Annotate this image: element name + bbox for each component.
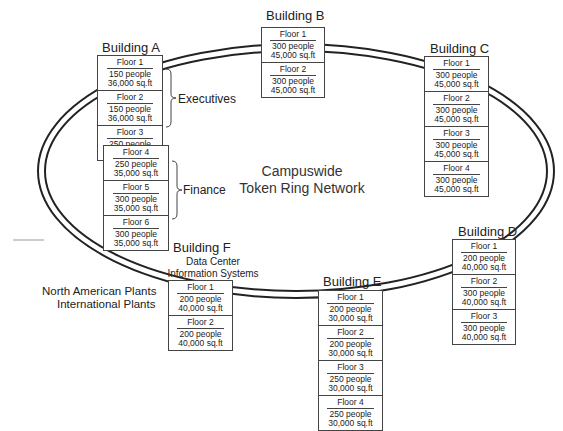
floor-area: 30,000 sq.ft — [319, 314, 382, 323]
finance-brace — [170, 160, 184, 220]
building-a-title: Building A — [102, 40, 160, 55]
building-d: Floor 1 200 people 40,000 sq.ft Floor 2 … — [452, 239, 516, 345]
floor-area: 36,000 sq.ft — [98, 79, 162, 88]
floor-area: 30,000 sq.ft — [319, 419, 382, 428]
floor-name: Floor 3 — [433, 129, 479, 140]
floor-area: 40,000 sq.ft — [453, 298, 515, 307]
floor-name: Floor 4 — [433, 164, 479, 175]
floor: Floor 6 300 people 35,000 sq.ft — [104, 215, 168, 250]
floor-area: 30,000 sq.ft — [319, 384, 382, 393]
floor: Floor 1 200 people 40,000 sq.ft — [169, 281, 232, 315]
building-c: Floor 1 300 people 45,000 sq.ft Floor 2 … — [424, 56, 489, 197]
floor-name: Floor 1 — [270, 30, 316, 41]
floor-name: Floor 1 — [327, 293, 373, 304]
floor-name: Floor 1 — [177, 283, 223, 294]
floor-area: 40,000 sq.ft — [453, 333, 515, 342]
floor-area: 45,000 sq.ft — [262, 51, 324, 60]
floor: Floor 4 300 people 45,000 sq.ft — [425, 161, 488, 196]
building-f-subtitle-1: Data Center — [158, 256, 268, 267]
floor-name: Floor 3 — [461, 312, 507, 323]
executives-brace — [164, 68, 178, 128]
floor-name: Floor 2 — [270, 65, 316, 76]
floor: Floor 1 150 people 36,000 sq.ft — [98, 56, 162, 90]
floor-area: 45,000 sq.ft — [262, 86, 324, 95]
floor-area: 40,000 sq.ft — [169, 304, 232, 313]
floor: Floor 4 250 people 35,000 sq.ft — [104, 146, 168, 180]
floor: Floor 1 300 people 45,000 sq.ft — [425, 57, 488, 91]
international-plants-label: International Plants — [57, 298, 155, 310]
floor-area: 45,000 sq.ft — [425, 150, 488, 159]
network-label: Campuswide Token Ring Network — [222, 163, 382, 197]
floor-name: Floor 4 — [113, 148, 159, 159]
floor-name: Floor 1 — [433, 59, 479, 70]
building-e-title: Building E — [323, 274, 382, 289]
building-d-title: Building D — [458, 224, 517, 239]
building-f-title: Building F — [173, 240, 231, 255]
floor: Floor 3 250 people 30,000 sq.ft — [319, 360, 382, 395]
floor-name: Floor 1 — [107, 58, 153, 69]
floor-area: 30,000 sq.ft — [319, 349, 382, 358]
floor: Floor 2 150 people 36,000 sq.ft — [98, 90, 162, 125]
floor-name: Floor 2 — [433, 94, 479, 105]
floor-area: 35,000 sq.ft — [104, 169, 168, 178]
floor: Floor 2 300 people 40,000 sq.ft — [453, 274, 515, 309]
finance-label: Finance — [183, 183, 226, 197]
floor: Floor 2 200 people 40,000 sq.ft — [169, 315, 232, 350]
building-f: Floor 1 200 people 40,000 sq.ft Floor 2 … — [168, 280, 233, 351]
floor-area: 45,000 sq.ft — [425, 185, 488, 194]
floor-name: Floor 2 — [461, 277, 507, 288]
floor-name: Floor 4 — [327, 398, 373, 409]
floor: Floor 1 200 people 30,000 sq.ft — [319, 291, 382, 325]
floor-name: Floor 5 — [113, 183, 159, 194]
floor: Floor 5 300 people 35,000 sq.ft — [104, 180, 168, 215]
floor-name: Floor 3 — [107, 128, 153, 139]
floor: Floor 1 200 people 40,000 sq.ft — [453, 240, 515, 274]
building-c-title: Building C — [430, 41, 489, 56]
network-label-line1: Campuswide — [222, 163, 382, 180]
building-a-lower: Floor 4 250 people 35,000 sq.ft Floor 5 … — [103, 145, 169, 251]
floor: Floor 2 300 people 45,000 sq.ft — [262, 62, 324, 97]
floor: Floor 1 300 people 45,000 sq.ft — [262, 28, 324, 62]
floor-area: 45,000 sq.ft — [425, 115, 488, 124]
floor-area: 40,000 sq.ft — [169, 339, 232, 348]
floor: Floor 3 300 people 40,000 sq.ft — [453, 309, 515, 344]
floor-area: 45,000 sq.ft — [425, 80, 488, 89]
floor-area: 36,000 sq.ft — [98, 114, 162, 123]
north-american-plants-label: North American Plants — [42, 285, 156, 297]
network-label-line2: Token Ring Network — [222, 180, 382, 197]
floor: Floor 2 200 people 30,000 sq.ft — [319, 325, 382, 360]
floor-name: Floor 2 — [177, 318, 223, 329]
building-b: Floor 1 300 people 45,000 sq.ft Floor 2 … — [261, 27, 325, 98]
floor: Floor 4 250 people 30,000 sq.ft — [319, 395, 382, 430]
floor-area: 35,000 sq.ft — [104, 204, 168, 213]
floor-area: 40,000 sq.ft — [453, 263, 515, 272]
floor-name: Floor 2 — [107, 93, 153, 104]
floor-name: Floor 2 — [327, 328, 373, 339]
building-b-title: Building B — [266, 8, 325, 23]
floor-name: Floor 6 — [113, 218, 159, 229]
building-f-subtitle-2: Information Systems — [148, 268, 278, 279]
building-e: Floor 1 200 people 30,000 sq.ft Floor 2 … — [318, 290, 383, 431]
floor-name: Floor 3 — [327, 363, 373, 374]
executives-label: Executives — [178, 92, 236, 106]
floor: Floor 3 300 people 45,000 sq.ft — [425, 126, 488, 161]
floor: Floor 2 300 people 45,000 sq.ft — [425, 91, 488, 126]
floor-area: 35,000 sq.ft — [104, 239, 168, 248]
floor-name: Floor 1 — [461, 242, 507, 253]
